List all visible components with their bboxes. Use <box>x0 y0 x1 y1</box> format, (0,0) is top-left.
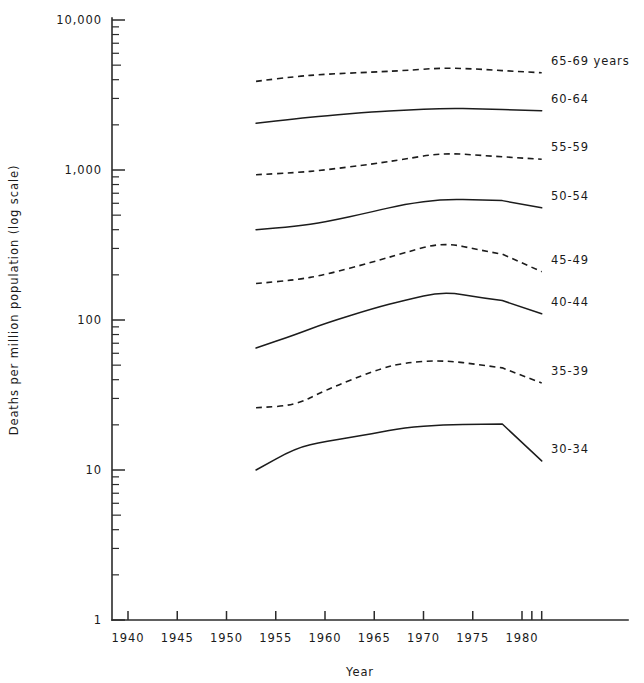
x-tick-label: 1960 <box>309 631 342 645</box>
series-line-40-44 <box>256 293 542 348</box>
x-tick-label: 1980 <box>506 631 539 645</box>
chart-figure: 10,0001,000100101 1940194519501955196019… <box>0 0 644 683</box>
y-axis-title: Deaths per million population (log scale… <box>7 165 21 436</box>
series-label-60-64: 60-64 <box>551 92 589 106</box>
series-label-30-34: 30-34 <box>551 442 589 456</box>
x-tick-label: 1970 <box>407 631 440 645</box>
series-label-65-69-years: 65-69 years <box>551 54 630 68</box>
y-tick-label: 100 <box>77 313 102 327</box>
series-label-55-59: 55-59 <box>551 140 589 154</box>
x-axis: 194019451950195519601965197019751980 <box>112 611 628 645</box>
x-tick-label: 1945 <box>161 631 194 645</box>
y-tick-label: 1,000 <box>65 163 102 177</box>
series-line-35-39 <box>256 361 542 408</box>
y-tick-label: 10,000 <box>56 13 102 27</box>
x-tick-label: 1965 <box>358 631 391 645</box>
chart-svg: 10,0001,000100101 1940194519501955196019… <box>0 0 644 683</box>
x-tick-label: 1950 <box>210 631 243 645</box>
series-line-45-49 <box>256 245 542 284</box>
x-axis-title: Year <box>345 665 374 679</box>
series-label-50-54: 50-54 <box>551 189 589 203</box>
x-tick-label: 1940 <box>112 631 145 645</box>
series-line-60-64 <box>256 108 542 123</box>
series-line-30-34 <box>256 424 542 470</box>
series-line-65-69-years <box>256 68 542 81</box>
series-line-55-59 <box>256 154 542 175</box>
series-lines <box>256 68 542 470</box>
series-line-50-54 <box>256 200 542 230</box>
series-label-40-44: 40-44 <box>551 295 589 309</box>
series-label-35-39: 35-39 <box>551 364 589 378</box>
series-labels: 65-69 years60-6455-5950-5445-4940-4435-3… <box>551 54 630 456</box>
y-axis: 10,0001,000100101 <box>56 13 125 627</box>
y-tick-label: 1 <box>94 613 102 627</box>
y-tick-label: 10 <box>86 463 102 477</box>
x-tick-label: 1955 <box>259 631 292 645</box>
x-tick-label: 1975 <box>456 631 489 645</box>
series-label-45-49: 45-49 <box>551 253 589 267</box>
